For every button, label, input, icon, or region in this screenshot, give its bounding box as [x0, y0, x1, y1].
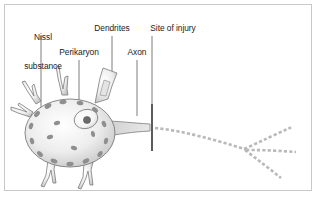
degenerating-axon-main [155, 128, 248, 150]
degenerating-axon-branch-lower [245, 150, 281, 178]
degenerating-axon-group [155, 127, 296, 178]
label-perikaryon: Perikaryon [48, 48, 110, 58]
degenerating-axon-branch-middle [246, 150, 296, 152]
degenerating-axon-branch-upper [244, 127, 292, 149]
label-dendrites: Dendrites [83, 24, 141, 34]
label-axon: Axon [118, 48, 156, 58]
dendrite-left [11, 103, 33, 117]
neuron-diagram-figure: Nissl substance Dendrites Site of injury… [0, 0, 318, 197]
label-nissl-substance-line2: substance [12, 62, 74, 72]
nucleolus [83, 116, 90, 123]
label-nissl-substance-line1: Nissl [12, 33, 74, 43]
label-site-of-injury: Site of injury [140, 24, 206, 34]
perikaryon-soma [25, 99, 115, 167]
